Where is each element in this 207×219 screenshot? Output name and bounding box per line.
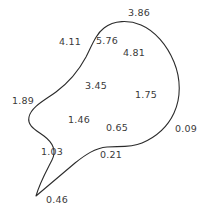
region-outline-shape bbox=[0, 0, 207, 219]
region-value-label-0-21: 0.21 bbox=[100, 149, 122, 160]
region-value-label-1-89: 1.89 bbox=[12, 95, 34, 106]
region-value-label-0-46: 0.46 bbox=[46, 194, 68, 205]
region-value-label-3-45: 3.45 bbox=[85, 80, 107, 91]
region-value-label-5-76: 5.76 bbox=[96, 35, 118, 46]
region-value-label-4-11: 4.11 bbox=[59, 36, 81, 47]
outline-path bbox=[29, 22, 180, 196]
region-value-label-1-03: 1.03 bbox=[41, 146, 63, 157]
region-value-label-1-75: 1.75 bbox=[135, 89, 157, 100]
region-value-label-0-65: 0.65 bbox=[106, 122, 128, 133]
region-value-label-3-86: 3.86 bbox=[128, 7, 150, 18]
region-value-label-0-09: 0.09 bbox=[175, 123, 197, 134]
figure-root: 3.86 4.11 5.76 4.81 1.89 3.45 1.75 1.46 … bbox=[0, 0, 207, 219]
region-value-label-1-46: 1.46 bbox=[68, 114, 90, 125]
region-value-label-4-81: 4.81 bbox=[123, 47, 145, 58]
